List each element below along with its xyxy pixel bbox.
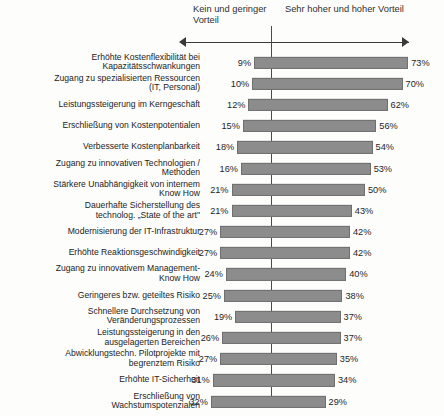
- value-label-left: 25%: [197, 291, 221, 301]
- value-label-right: 37%: [344, 312, 362, 322]
- bar-segment: [220, 353, 337, 365]
- bar-segment: [248, 99, 387, 111]
- bar-segment: [222, 332, 340, 344]
- value-label-left: 31%: [186, 375, 210, 385]
- bar-track: 21%50%: [0, 179, 444, 200]
- bar-row: Zugang zu spezialisierten Ressourcen (IT…: [0, 73, 444, 94]
- bar-row: Schnellere Durchsetzung von Veränderungs…: [0, 306, 444, 327]
- bar-row: Stärkere Unabhängigkeit von internem Kno…: [0, 179, 444, 200]
- bar-segment: [211, 396, 326, 408]
- bar-row: Verbesserte Kostenplanbarkeit18%54%: [0, 137, 444, 158]
- value-label-right: 54%: [376, 142, 394, 152]
- value-label-left: 19%: [208, 312, 232, 322]
- bar-row: Erschließung von Kostenpotentialen15%56%: [0, 116, 444, 137]
- bar-track: 15%56%: [0, 116, 444, 137]
- arrow-right-icon: [402, 37, 409, 47]
- value-label-left: 18%: [210, 142, 234, 152]
- bar-segment: [232, 205, 352, 217]
- bar-track: 10%70%: [0, 73, 444, 94]
- bar-track: 27%42%: [0, 243, 444, 264]
- bar-track: 32%29%: [0, 391, 444, 412]
- bar-row: Erschließung von Wachstumspotenzialen32%…: [0, 391, 444, 412]
- bar-track: 12%62%: [0, 94, 444, 115]
- value-label-left: 9%: [227, 58, 251, 68]
- bar-segment: [243, 120, 376, 132]
- bar-row: Erhöhte Kostenflexibilität bei Kapazität…: [0, 52, 444, 73]
- bar-track: 31%34%: [0, 370, 444, 391]
- bar-row: Leistungssteigerung in den ausgelagerten…: [0, 327, 444, 348]
- bar-segment: [220, 247, 350, 259]
- value-label-right: 73%: [411, 58, 429, 68]
- bar-track: 19%37%: [0, 306, 444, 327]
- bar-row: Zugang zu innovativen Technologien / Met…: [0, 158, 444, 179]
- chart-container: Kein und geringer Vorteil Sehr hoher und…: [0, 0, 444, 416]
- bar-track: 24%40%: [0, 264, 444, 285]
- bar-row: Modernisierung der IT-Infrastruktur27%42…: [0, 222, 444, 243]
- value-label-right: 42%: [353, 227, 371, 237]
- bar-track: 27%42%: [0, 222, 444, 243]
- value-label-right: 35%: [340, 354, 358, 364]
- value-label-right: 40%: [349, 269, 367, 279]
- bar-row: Abwicklungstechn. Pilotprojekte mit begr…: [0, 349, 444, 370]
- value-label-left: 12%: [221, 100, 245, 110]
- value-label-right: 34%: [338, 375, 356, 385]
- axis-legend-left: Kein und geringer Vorteil: [193, 4, 283, 26]
- bar-track: 16%53%: [0, 158, 444, 179]
- bar-row: Geringeres bzw. geteiltes Risiko25%38%: [0, 285, 444, 306]
- bar-rows: Erhöhte Kostenflexibilität bei Kapazität…: [0, 52, 444, 412]
- value-label-right: 62%: [391, 100, 409, 110]
- bar-row: Zugang zu innovativem Management- Know H…: [0, 264, 444, 285]
- bar-row: Leistungssteigerung im Kerngeschäft12%62…: [0, 94, 444, 115]
- bar-segment: [213, 374, 335, 386]
- bar-row: Dauerhafte Sicherstellung des technolog.…: [0, 200, 444, 221]
- bar-segment: [235, 311, 340, 323]
- value-label-right: 37%: [344, 333, 362, 343]
- bar-row: Erhöhte IT-Sicherheit31%34%: [0, 370, 444, 391]
- bar-track: 25%38%: [0, 285, 444, 306]
- value-label-right: 53%: [374, 164, 392, 174]
- bar-segment: [232, 184, 365, 196]
- value-label-right: 38%: [345, 291, 363, 301]
- value-label-left: 16%: [214, 164, 238, 174]
- value-label-right: 29%: [329, 397, 347, 407]
- value-label-left: 32%: [184, 397, 208, 407]
- value-label-left: 21%: [205, 185, 229, 195]
- bar-segment: [241, 162, 371, 174]
- value-label-right: 50%: [368, 185, 386, 195]
- bar-track: 9%73%: [0, 52, 444, 73]
- axis-legend-right: Sehr hoher und hoher Vorteil: [285, 4, 444, 15]
- value-label-left: 27%: [193, 354, 217, 364]
- value-label-left: 27%: [193, 227, 217, 237]
- double-headed-arrow-icon: [184, 42, 409, 43]
- value-label-left: 27%: [193, 248, 217, 258]
- bar-track: 18%54%: [0, 137, 444, 158]
- bar-segment: [237, 141, 372, 153]
- bar-segment: [226, 268, 346, 280]
- value-label-right: 42%: [353, 248, 371, 258]
- value-label-right: 70%: [406, 79, 424, 89]
- value-label-left: 15%: [216, 121, 240, 131]
- bar-track: 21%43%: [0, 200, 444, 221]
- value-label-right: 56%: [379, 121, 397, 131]
- bar-row: Erhöhte Reaktionsgeschwindigkeit27%42%: [0, 243, 444, 264]
- value-label-left: 10%: [225, 79, 249, 89]
- bar-track: 26%37%: [0, 327, 444, 348]
- arrow-left-icon: [179, 37, 186, 47]
- bar-segment: [224, 290, 342, 302]
- value-label-left: 24%: [199, 269, 223, 279]
- bar-segment: [252, 78, 402, 90]
- value-label-left: 26%: [195, 333, 219, 343]
- bar-segment: [220, 226, 350, 238]
- value-label-left: 21%: [205, 206, 229, 216]
- bar-segment: [254, 57, 408, 69]
- bar-track: 27%35%: [0, 349, 444, 370]
- value-label-right: 43%: [355, 206, 373, 216]
